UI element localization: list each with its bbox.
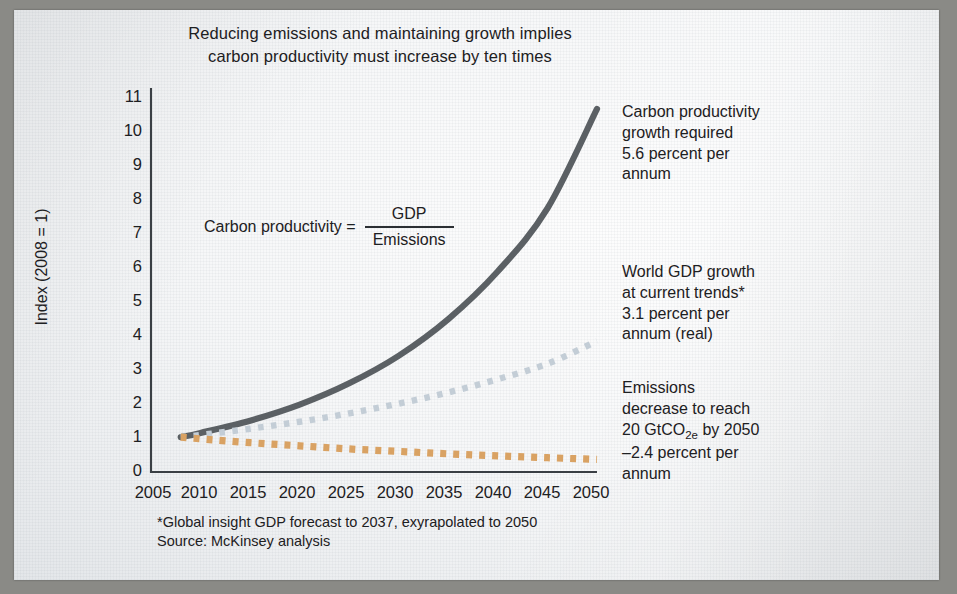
annotation-gdp-l1: World GDP growth bbox=[622, 262, 837, 283]
axis-lines bbox=[151, 88, 597, 472]
annotation-emissions-l3a: 20 GtCO bbox=[622, 421, 685, 438]
annotation-gdp: World GDP growth at current trends* 3.1 … bbox=[622, 262, 837, 345]
annotation-carbon-productivity-l1: Carbon productivity bbox=[622, 102, 837, 123]
annotation-carbon-productivity-l2: growth required bbox=[622, 123, 837, 144]
annotation-emissions-l2: decrease to reach bbox=[622, 399, 837, 420]
footnote-line1: *Global insight GDP forecast to 2037, ex… bbox=[157, 513, 537, 532]
series-emissions-line bbox=[181, 437, 597, 459]
footnote-line2: Source: McKinsey analysis bbox=[157, 532, 537, 551]
formula-fraction: GDP Emissions bbox=[365, 205, 454, 250]
annotation-emissions-l5: annum bbox=[622, 464, 837, 485]
carbon-productivity-formula: Carbon productivity = GDP Emissions bbox=[204, 205, 454, 250]
annotation-gdp-l2: at current trends* bbox=[622, 283, 837, 304]
chart-figure: Reducing emissions and maintaining growt… bbox=[0, 0, 957, 594]
annotation-emissions-l3c: by 2050 bbox=[698, 421, 759, 438]
annotation-gdp-l4: annum (real) bbox=[622, 324, 837, 345]
formula-lhs: Carbon productivity = bbox=[204, 218, 356, 236]
annotation-emissions-l3: 20 GtCO2e by 2050 bbox=[622, 420, 837, 443]
annotation-carbon-productivity-l4: annum bbox=[622, 164, 837, 185]
annotation-carbon-productivity-l3: 5.6 percent per bbox=[622, 144, 837, 165]
annotation-emissions-l4: –2.4 percent per bbox=[622, 443, 837, 464]
formula-fraction-bar bbox=[365, 226, 454, 228]
screenshot-page: Reducing emissions and maintaining growt… bbox=[0, 0, 957, 594]
series-carbon-productivity-line bbox=[181, 109, 597, 437]
annotation-emissions-subscript: 2e bbox=[685, 429, 698, 441]
annotation-carbon-productivity: Carbon productivity growth required 5.6 … bbox=[622, 102, 837, 185]
annotation-emissions: Emissions decrease to reach 20 GtCO2e by… bbox=[622, 378, 837, 484]
annotation-gdp-l3: 3.1 percent per bbox=[622, 304, 837, 325]
footnote-source-note: *Global insight GDP forecast to 2037, ex… bbox=[157, 513, 537, 552]
formula-denominator: Emissions bbox=[365, 230, 454, 250]
formula-numerator: GDP bbox=[384, 205, 435, 225]
annotation-emissions-l1: Emissions bbox=[622, 378, 837, 399]
